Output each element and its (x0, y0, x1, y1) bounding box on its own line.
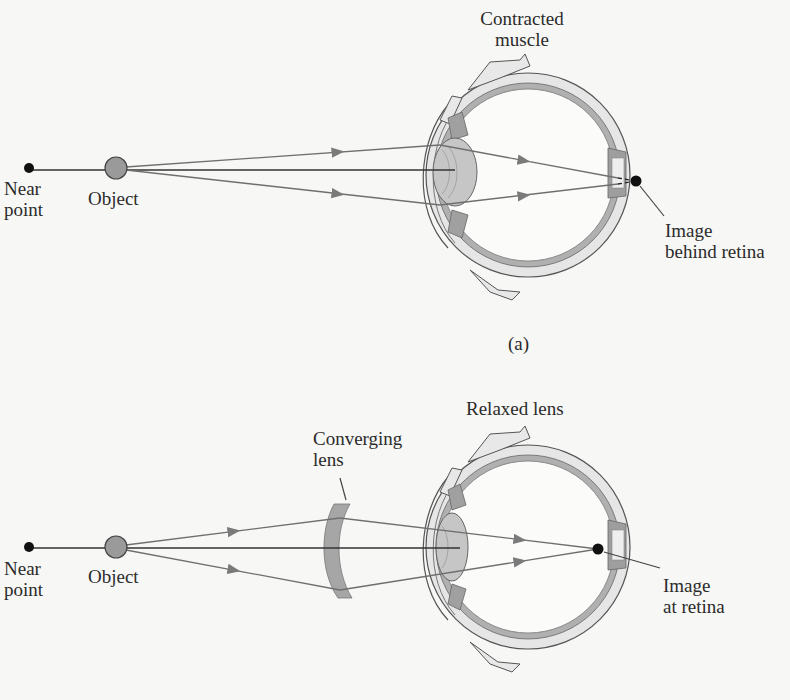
near-point-marker-a (24, 163, 34, 173)
image-marker-a (631, 176, 642, 187)
eye-a (423, 54, 630, 300)
contracted-label-line1: Contracted (452, 8, 592, 29)
object-label-b: Object (88, 566, 139, 587)
near-label-b-line1: Near (4, 558, 43, 579)
caption-a: (a) (508, 333, 529, 354)
near-point-marker-b (24, 542, 34, 552)
panel-a (24, 54, 664, 300)
image-pointer-a (640, 186, 664, 216)
converging-lens-label: Converging lens (313, 428, 402, 470)
lens-label-line1: Converging (313, 428, 402, 449)
relaxed-lens-label: Relaxed lens (466, 398, 564, 419)
near-label-line1: Near (4, 178, 43, 199)
object-label-a: Object (88, 188, 139, 209)
object-marker-b (105, 536, 127, 558)
image-marker-b (593, 544, 604, 555)
diagram-canvas: Contracted muscle Near point Object Imag… (0, 0, 790, 700)
image-b-line1: Image (663, 575, 725, 596)
near-point-label-a: Near point (4, 178, 43, 220)
contracted-muscle-label: Contracted muscle (452, 8, 592, 50)
near-label-b-line2: point (4, 579, 43, 600)
object-marker-a (105, 157, 127, 179)
contracted-label-line2: muscle (452, 29, 592, 50)
image-b-line2: at retina (663, 596, 725, 617)
image-behind-retina-label: Image behind retina (665, 220, 765, 262)
near-point-label-b: Near point (4, 558, 43, 600)
image-label-line1: Image (665, 220, 765, 241)
near-label-line2: point (4, 199, 43, 220)
lens-label-line2: lens (313, 449, 402, 470)
image-label-line2: behind retina (665, 241, 765, 262)
lens-pointer (340, 478, 346, 500)
image-at-retina-label: Image at retina (663, 575, 725, 617)
